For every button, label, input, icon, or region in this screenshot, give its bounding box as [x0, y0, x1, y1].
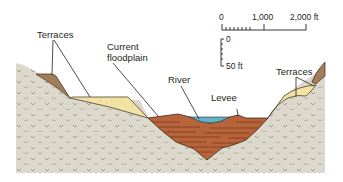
label-current-floodplain-line1: Current	[107, 41, 139, 52]
label-terraces-right: Terraces	[276, 66, 312, 77]
scale-horizontal-2000: 2,000 ft	[290, 12, 318, 22]
label-terraces-left: Terraces	[37, 29, 73, 40]
scale-bar	[221, 24, 306, 66]
scale-horizontal-1000: 1,000	[252, 12, 273, 22]
valley-cross-section-diagram: Terraces Current floodplain River Levee …	[0, 0, 343, 182]
scale-vertical-0: 0	[226, 34, 231, 44]
label-levee: Levee	[211, 92, 237, 103]
scale-horizontal-0: 0	[219, 12, 224, 22]
scale-vertical-50: 50 ft	[226, 61, 243, 71]
label-river: River	[168, 74, 190, 85]
label-current-floodplain-line2: floodplain	[107, 52, 148, 63]
cross-section-svg	[0, 0, 343, 182]
